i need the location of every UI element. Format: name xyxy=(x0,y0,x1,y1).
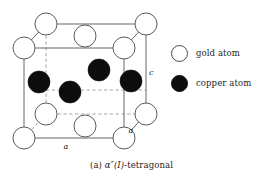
gold-atom xyxy=(35,103,57,125)
legend-label-gold-atom: gold atom xyxy=(196,49,240,58)
gold-atom xyxy=(135,103,157,125)
copper-atom xyxy=(28,71,50,93)
legend-item-gold-atom: gold atom xyxy=(171,38,263,68)
gold-atom-face-center-bottom xyxy=(74,115,96,137)
gold-atom-face-center-top xyxy=(74,25,96,47)
figure-container: c a a gold atom copper atom (a) α″(I)-te… xyxy=(0,0,263,184)
caption-symbol: α″(I) xyxy=(105,160,124,170)
gold-atom xyxy=(113,37,135,59)
filled-circle-icon xyxy=(171,75,188,92)
a-axis-bottom-label: a xyxy=(64,142,69,151)
caption-prefix: (a) xyxy=(90,160,102,170)
legend-label-copper-atom: copper atom xyxy=(196,79,251,88)
copper-atom xyxy=(59,81,81,103)
gold-atom xyxy=(135,13,157,35)
figure-caption: (a) α″(I)-tetragonal xyxy=(0,160,263,170)
atoms-layer xyxy=(13,13,157,149)
c-axis-label: c xyxy=(149,68,154,77)
a-axis-depth-label: a xyxy=(129,126,134,135)
legend: gold atom copper atom xyxy=(171,38,263,98)
legend-item-copper-atom: copper atom xyxy=(171,68,263,98)
gold-atom xyxy=(35,13,57,35)
gold-atom xyxy=(13,127,35,149)
gold-atom xyxy=(13,37,35,59)
copper-atom xyxy=(120,70,142,92)
open-circle-icon xyxy=(171,45,188,62)
caption-suffix: -tetragonal xyxy=(124,160,173,170)
copper-atom xyxy=(88,59,110,81)
